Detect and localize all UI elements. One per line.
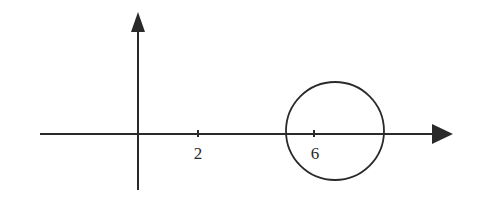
x-axis-arrow-icon (432, 124, 453, 144)
coordinate-plane: 2 6 (0, 0, 477, 200)
circle (286, 82, 384, 180)
x-tick-label-6: 6 (311, 144, 320, 163)
x-tick-label-2: 2 (194, 144, 203, 163)
diagram-canvas: 2 6 (0, 0, 477, 200)
y-axis-arrow-icon (131, 12, 145, 32)
